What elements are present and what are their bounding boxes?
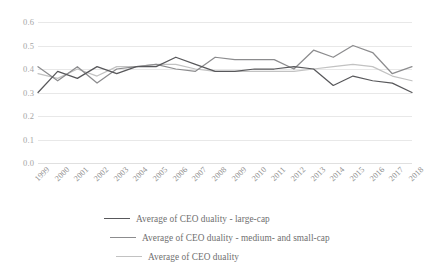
y-axis-tick: 0.0 — [14, 158, 34, 168]
x-axis-tick: 2012 — [289, 165, 307, 183]
x-axis-tick: 2017 — [387, 165, 405, 183]
y-axis-tick: 0.5 — [14, 41, 34, 51]
x-axis-tick: 2001 — [72, 165, 90, 183]
legend-swatch-medium-small-cap — [110, 237, 136, 238]
legend-label-average: Average of CEO duality — [148, 252, 239, 262]
series-line — [38, 64, 412, 80]
x-axis-tick: 2014 — [328, 165, 346, 183]
y-axis-tick: 0.3 — [14, 88, 34, 98]
x-axis-tick: 2002 — [92, 165, 110, 183]
y-axis-tick: 0.6 — [14, 17, 34, 27]
x-axis-tick-labels: 1999200020012002200320042005200620072008… — [38, 165, 412, 210]
legend-swatch-average — [116, 256, 142, 257]
legend-item-large-cap[interactable]: Average of CEO duality - large-cap — [104, 209, 421, 228]
legend-label-large-cap: Average of CEO duality - large-cap — [136, 214, 270, 224]
y-axis-tick: 0.4 — [14, 64, 34, 74]
x-axis-tick: 2005 — [151, 165, 169, 183]
x-axis-tick: 2008 — [210, 165, 228, 183]
y-axis-tick: 0.2 — [14, 111, 34, 121]
x-axis-tick: 2010 — [250, 165, 268, 183]
x-axis-tick: 2004 — [132, 165, 150, 183]
x-axis-tick: 2015 — [348, 165, 366, 183]
series-lines — [38, 22, 412, 163]
x-axis-tick: 2007 — [191, 165, 209, 183]
x-axis-tick: 2003 — [112, 165, 130, 183]
x-axis-tick: 2009 — [230, 165, 248, 183]
x-axis-tick: 2016 — [368, 165, 386, 183]
x-axis-tick: 2018 — [407, 165, 425, 183]
chart-legend: Average of CEO duality - large-cap Avera… — [104, 209, 421, 266]
x-axis-tick: 2000 — [53, 165, 71, 183]
legend-label-medium-small-cap: Average of CEO duality - medium- and sma… — [142, 233, 330, 243]
x-axis-tick: 2013 — [309, 165, 327, 183]
x-axis-line — [38, 163, 412, 164]
y-axis-tick: 0.1 — [14, 135, 34, 145]
x-axis-tick: 1999 — [33, 165, 51, 183]
legend-item-medium-small-cap[interactable]: Average of CEO duality - medium- and sma… — [104, 228, 421, 247]
x-axis-tick: 2011 — [270, 165, 288, 183]
legend-item-average[interactable]: Average of CEO duality — [104, 247, 421, 266]
legend-swatch-large-cap — [104, 218, 130, 219]
x-axis-tick: 2006 — [171, 165, 189, 183]
